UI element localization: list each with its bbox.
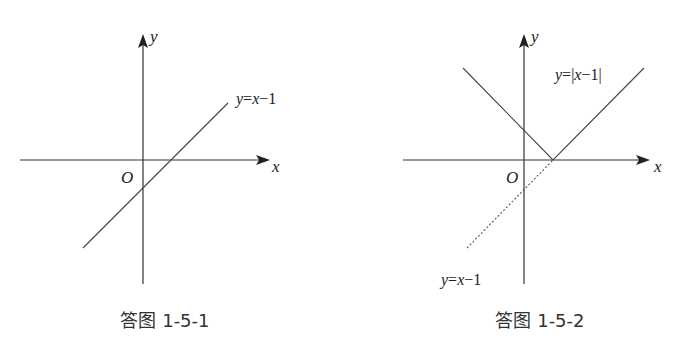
x-axis-label: x [653, 157, 662, 176]
svg-text:y=|x−1|: y=|x−1| [553, 66, 602, 84]
curve-label: y=x−1 [234, 90, 276, 108]
figure-caption: 答图 1-5-2 [495, 310, 584, 331]
line-y-equals-x-minus-1 [83, 103, 228, 248]
origin-label: O [506, 168, 518, 187]
diagram-canvas: y x O y=x−1 答图 1-5-1 y x O y=|x−1| y=x−1… [0, 0, 685, 348]
abs-curve-label: y=|x−1| [553, 66, 602, 84]
line-y-equals-abs-x-minus-1 [463, 68, 644, 160]
y-axis-label: y [148, 27, 158, 46]
figure-2: y x O y=|x−1| y=x−1 答图 1-5-2 [403, 27, 662, 331]
y-axis-label: y [529, 27, 539, 46]
figure-caption: 答图 1-5-1 [120, 310, 209, 331]
dotted-curve-label: y=x−1 [439, 271, 481, 289]
svg-text:y=x−1: y=x−1 [234, 90, 276, 108]
svg-text:y=x−1: y=x−1 [439, 271, 481, 289]
x-axis-label: x [271, 157, 280, 176]
origin-label: O [121, 168, 133, 187]
figure-1: y x O y=x−1 答图 1-5-1 [20, 27, 280, 331]
